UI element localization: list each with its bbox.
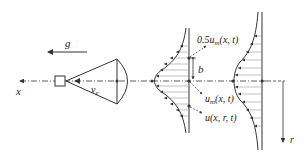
centerline-velocity-label: um(x, t)	[205, 93, 235, 106]
half-width-label: b	[198, 63, 204, 75]
profile-velocity-label: u(x, r, t)	[205, 112, 237, 124]
half-width-marker	[190, 58, 196, 79]
half-max-label: 0.5um(x, t)	[197, 34, 239, 47]
leader-profile	[190, 107, 202, 113]
r-axis	[268, 81, 285, 142]
source-box	[55, 76, 65, 86]
r-axis-label: r	[290, 134, 294, 145]
gravity-label: g	[65, 37, 71, 49]
leader-half-max	[190, 46, 206, 57]
x-axis-label: x	[15, 85, 21, 97]
leader-centerline	[190, 82, 202, 94]
plume-diagram: g x r ve	[0, 0, 304, 157]
velocity-profile-2	[231, 12, 263, 150]
velocity-label: ve	[91, 84, 99, 97]
velocity-profile-1	[150, 28, 190, 133]
plume-cone	[66, 59, 128, 104]
